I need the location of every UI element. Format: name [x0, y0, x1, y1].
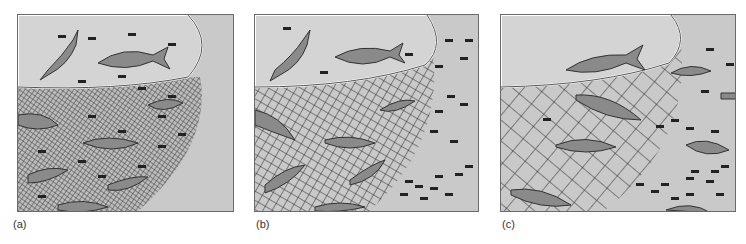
- net-illustration-medium-mesh: [255, 15, 479, 212]
- net-illustration-coarse-mesh: [501, 15, 736, 212]
- panel-c-label: (c): [502, 218, 515, 230]
- panel-b-label: (b): [256, 218, 269, 230]
- panel-a-label: (a): [13, 218, 26, 230]
- panel-a: [17, 14, 234, 212]
- panel-b: [254, 14, 479, 212]
- net-illustration-fine-mesh: [18, 15, 234, 212]
- panel-c: [500, 14, 736, 212]
